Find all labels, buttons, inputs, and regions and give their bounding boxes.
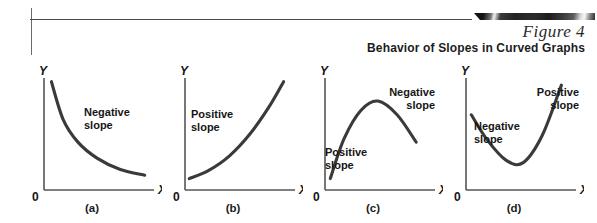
slope-label-line-2: slope xyxy=(84,119,130,132)
y-axis-label: Y xyxy=(39,64,48,78)
x-axis-label: X xyxy=(438,183,443,197)
positive-slope-label: Positiveslope xyxy=(191,108,233,133)
figure-subtitle: Behavior of Slopes in Curved Graphs xyxy=(367,41,585,55)
slope-label-line-1: Positive xyxy=(325,146,367,159)
panel-caption: (a) xyxy=(22,202,162,214)
positive-slope-label: Positiveslope xyxy=(537,86,579,111)
x-axis-label: X xyxy=(157,183,162,197)
panel-caption: (b) xyxy=(163,202,303,214)
slope-label-line-2: slope xyxy=(389,99,435,112)
slope-label-line-1: Negative xyxy=(84,106,130,119)
slope-label-line-1: Positive xyxy=(191,108,233,121)
y-axis-label: Y xyxy=(320,64,329,78)
slope-label-line-2: slope xyxy=(191,121,233,134)
positive-slope-label: Positiveslope xyxy=(325,146,367,171)
header-gradient-bar xyxy=(474,13,595,20)
negative-slope-label: Negativeslope xyxy=(389,86,435,111)
graph-panel-a: YX0Negativeslope(a) xyxy=(22,62,162,223)
negative-slope-label: Negativeslope xyxy=(474,120,520,145)
graph-panel-c: YX0NegativeslopePositiveslope(c) xyxy=(303,62,443,223)
y-axis-label: Y xyxy=(461,64,470,78)
axes-and-curve: YX0 xyxy=(22,62,162,223)
header-vertical-rule xyxy=(31,8,32,55)
slope-label-line-1: Negative xyxy=(474,120,520,133)
figure-page: Figure 4 Behavior of Slopes in Curved Gr… xyxy=(0,0,597,223)
graph-panel-b: YX0Positiveslope(b) xyxy=(163,62,303,223)
slope-label-line-1: Negative xyxy=(389,86,435,99)
slope-label-line-1: Positive xyxy=(537,86,579,99)
graph-panel-d: YX0PositiveslopeNegativeslope(d) xyxy=(444,62,584,223)
y-axis-label: Y xyxy=(180,64,189,78)
panel-caption: (c) xyxy=(303,202,443,214)
panel-caption: (d) xyxy=(444,202,584,214)
x-axis-label: X xyxy=(579,183,584,197)
slope-label-line-2: slope xyxy=(537,99,579,112)
slope-label-line-2: slope xyxy=(474,133,520,146)
axes-and-curve: YX0 xyxy=(163,62,303,223)
negative-slope-label: Negativeslope xyxy=(84,106,130,131)
header-horizontal-rule xyxy=(30,19,472,20)
figure-number-label: Figure 4 xyxy=(523,22,585,42)
slope-label-line-2: slope xyxy=(325,159,367,172)
